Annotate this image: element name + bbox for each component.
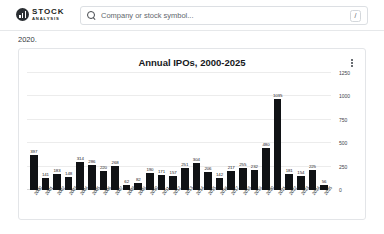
chart-bar-value-label: 304 [193,157,200,162]
chart-title: Annual IPOs, 2000-2025 [19,57,365,68]
chart-bar-slot[interactable]: 232 [249,73,261,190]
chart-x-tick-slot: 2024 [307,191,319,219]
search-bar[interactable]: / [80,6,368,25]
chart-bar-slot[interactable]: 304 [191,73,203,190]
chart-bar-value-label: 286 [88,159,95,164]
chart-x-tick-slot: 2013 [179,191,191,219]
chart-x-tick-slot: 2007 [109,191,121,219]
chart-bar-slot[interactable]: 82 [132,73,144,190]
chart-y-tick-label: 1250 [339,70,350,76]
chart-x-tick-slot: 2018 [237,191,249,219]
chart-bar-slot[interactable]: 217 [225,73,237,190]
chart-x-tick-slot: 2009 [132,191,144,219]
chart-bar-slot[interactable]: 183 [51,73,63,190]
logo-wordmark: STOCK ANALYSIS [32,8,64,21]
logo-line-2: ANALYSIS [32,17,64,21]
chart-bar-value-label: 251 [181,162,188,167]
site-logo[interactable]: STOCK ANALYSIS [16,8,78,21]
chart-bar-slot[interactable]: 181 [283,73,295,190]
search-shortcut-key: / [350,10,361,22]
chart-bar-slot[interactable]: 56 [318,73,330,190]
chart-bar-slot[interactable]: 142 [214,73,226,190]
chart-bar-slot[interactable]: 255 [237,73,249,190]
search-input[interactable] [101,11,350,20]
chart-bar[interactable] [88,165,96,190]
chart-bar-value-label: 397 [30,149,37,154]
chart-bar-value-label: 56 [322,179,327,184]
chart-plot-area: 3971411831483142862202686282190171157251… [27,73,331,190]
chart-bar-value-label: 220 [100,165,107,170]
chart-x-tick-slot: 2016 [214,191,226,219]
chart-x-tick-slot: 2025 [318,191,330,219]
chart-bar-slot[interactable]: 157 [167,73,179,190]
article-text-fragment: 2020. [18,35,37,44]
chart-bar-value-label: 154 [297,170,304,175]
chart-y-axis: 025050075010001250 [335,73,363,190]
chart-bar-value-label: 268 [112,160,119,165]
chart-x-axis: 2000200120022003200420052006200720082009… [27,191,331,219]
chart-bar-slot[interactable]: 268 [109,73,121,190]
chart-bar-slot[interactable]: 225 [307,73,319,190]
chart-bar-slot[interactable]: 480 [260,73,272,190]
kebab-menu-icon[interactable] [348,57,356,69]
chart-x-tick-slot: 2002 [51,191,63,219]
chart-bar-value-label: 1035 [273,93,282,98]
chart-bar-slot[interactable]: 220 [98,73,110,190]
chart-x-tick-slot: 2019 [249,191,261,219]
chart-y-tick-label: 250 [339,164,347,170]
chart-bar-value-label: 148 [65,171,72,176]
chart-bar-slot[interactable]: 141 [40,73,52,190]
chart-x-tick-slot: 2011 [156,191,168,219]
chart-x-tick-slot: 2015 [202,191,214,219]
chart-bar-value-label: 62 [124,179,129,184]
chart-bars: 3971411831483142862202686282190171157251… [27,73,331,190]
search-icon [87,11,96,20]
chart-x-tick-slot: 2017 [225,191,237,219]
chart-x-tick-slot: 2012 [167,191,179,219]
chart-bar-value-label: 190 [146,167,153,172]
chart-bar-value-label: 183 [54,168,61,173]
chart-y-tick-label: 500 [339,140,347,146]
chart-bar-value-label: 480 [262,142,269,147]
chart-bar-slot[interactable]: 154 [295,73,307,190]
chart-bar-value-label: 82 [136,177,141,182]
chart-x-tick-slot: 2021 [272,191,284,219]
chart-y-tick-label: 750 [339,117,347,123]
chart-bar[interactable] [262,148,270,190]
chart-x-tick-slot: 2005 [86,191,98,219]
chart-bar-slot[interactable]: 171 [156,73,168,190]
site-header: STOCK ANALYSIS / [0,0,384,31]
chart-x-tick-slot: 2020 [260,191,272,219]
chart-bar-value-label: 232 [251,164,258,169]
chart-card: Annual IPOs, 2000-2025 39714118314831428… [18,48,366,220]
chart-x-tick-slot: 2000 [28,191,40,219]
chart-bar-value-label: 157 [170,170,177,175]
chart-bar-slot[interactable]: 1035 [272,73,284,190]
chart-bar-value-label: 217 [228,165,235,170]
chart-y-tick-label: 1000 [339,93,350,99]
chart-bar[interactable] [274,99,282,190]
bar-chart-circle-icon [16,8,29,21]
chart-bar-slot[interactable]: 148 [63,73,75,190]
chart-x-tick-slot: 2014 [191,191,203,219]
chart-bar-value-label: 255 [239,162,246,167]
chart-bar[interactable] [30,155,38,190]
logo-line-1: STOCK [32,8,64,16]
chart-x-tick-slot: 2008 [121,191,133,219]
chart-x-tick-slot: 2001 [40,191,52,219]
chart-bar-value-label: 206 [204,166,211,171]
chart-x-tick-slot: 2022 [283,191,295,219]
chart-x-tick-slot: 2010 [144,191,156,219]
chart-bar-value-label: 142 [216,172,223,177]
chart-bar-slot[interactable]: 206 [202,73,214,190]
chart-bar-value-label: 225 [309,164,316,169]
chart-bar-slot[interactable]: 314 [74,73,86,190]
chart-bar-slot[interactable]: 62 [121,73,133,190]
chart-bar-slot[interactable]: 286 [86,73,98,190]
chart-bar-slot[interactable]: 251 [179,73,191,190]
chart-bar-value-label: 171 [158,169,165,174]
chart-bar-slot[interactable]: 397 [28,73,40,190]
chart-bar-slot[interactable]: 190 [144,73,156,190]
chart-x-tick-slot: 2003 [63,191,75,219]
chart-bar-value-label: 141 [42,172,49,177]
